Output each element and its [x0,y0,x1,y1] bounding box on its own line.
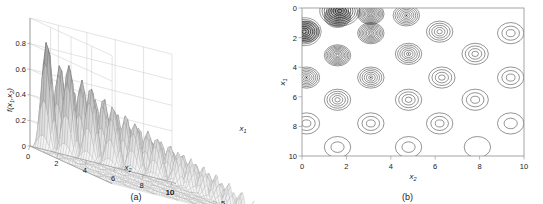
svg-text:0: 0 [22,142,26,151]
svg-text:8: 8 [293,122,297,131]
plot-frame [302,8,524,156]
figure-container: 00.20.40.60.8024681051010 f(x1,x2) x2 x1… [0,0,543,204]
panel-a-surface-plot: 00.20.40.60.8024681051010 f(x1,x2) x2 x1… [0,0,272,204]
svg-text:2: 2 [293,34,297,43]
svg-text:0.6: 0.6 [16,65,26,74]
svg-text:0.8: 0.8 [16,39,26,48]
svg-text:6: 6 [433,162,437,171]
svg-text:4: 4 [293,63,297,72]
contour-lines [293,3,524,157]
svg-text:8: 8 [478,162,482,171]
svg-text:2: 2 [54,159,58,168]
x2-axis-label: x2 [408,172,416,182]
surface-plot-svg: 00.20.40.60.8024681051010 f(x1,x2) x2 x1 [0,0,272,204]
svg-text:0.2: 0.2 [16,116,26,125]
svg-text:6: 6 [293,93,297,102]
panel-b-contour-plot: 02468100246810 x2 x1 (b) [272,0,543,204]
panel-a-caption: (a) [0,192,272,202]
svg-text:2: 2 [344,162,348,171]
svg-text:0: 0 [26,152,30,161]
svg-text:8: 8 [140,181,144,190]
svg-text:4: 4 [389,162,393,171]
z-axis-label: f(x1,x2) [5,88,15,112]
svg-text:4: 4 [83,166,87,175]
x1-axis-label: x1 [238,124,246,134]
svg-text:10: 10 [520,162,528,171]
svg-text:0.4: 0.4 [16,90,26,99]
x1-axis-label: x1 [278,78,288,86]
svg-text:0: 0 [293,4,297,13]
contour-plot-svg: 02468100246810 x2 x1 [272,0,543,204]
panel-b-caption: (b) [272,192,543,202]
svg-text:6: 6 [111,174,115,183]
svg-text:0: 0 [300,162,304,171]
svg-text:10: 10 [289,152,297,161]
